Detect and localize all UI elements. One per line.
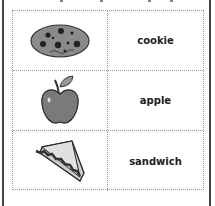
word-label: cookie xyxy=(108,11,203,70)
cookie-icon xyxy=(28,21,92,61)
table-row: cookie xyxy=(13,11,203,71)
image-cell xyxy=(13,71,108,130)
sandwich-icon xyxy=(30,137,90,185)
cut-off-header-text xyxy=(40,0,190,3)
table-row: apple xyxy=(13,71,203,131)
vocabulary-table: cookie apple sandwich xyxy=(12,10,204,190)
word-label: sandwich xyxy=(108,131,203,191)
apple-icon xyxy=(38,74,82,128)
table-row: sandwich xyxy=(13,131,203,191)
image-cell xyxy=(13,131,108,191)
word-label: apple xyxy=(108,71,203,130)
image-cell xyxy=(13,11,108,70)
